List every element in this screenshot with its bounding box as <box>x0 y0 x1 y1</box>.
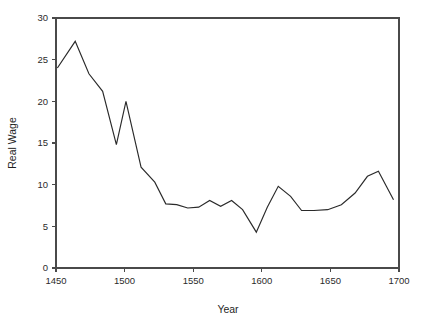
y-tick-label-0: 0 <box>43 262 48 273</box>
x-tick-label-1550: 1550 <box>183 275 204 286</box>
y-tick-label-20: 20 <box>37 96 48 107</box>
y-tick-label-30: 30 <box>37 12 48 23</box>
chart-page: 051015202530 145015001550160016501700 Re… <box>0 0 428 325</box>
y-tick-label-5: 5 <box>43 221 48 232</box>
x-tick-label-1500: 1500 <box>114 275 135 286</box>
y-axis-tick-labels: 051015202530 <box>37 12 48 273</box>
x-axis-ticks <box>56 268 399 272</box>
y-tick-label-15: 15 <box>37 137 48 148</box>
x-tick-label-1650: 1650 <box>320 275 341 286</box>
x-axis-title: Year <box>217 303 239 315</box>
x-tick-label-1600: 1600 <box>251 275 272 286</box>
y-axis-title: Real Wage <box>6 117 18 169</box>
plot-frame <box>56 18 399 268</box>
data-series-group <box>57 41 393 232</box>
axis-frame <box>56 18 399 268</box>
real-wage-line-chart: 051015202530 145015001550160016501700 Re… <box>0 0 428 325</box>
x-tick-label-1450: 1450 <box>45 275 66 286</box>
x-axis-tick-labels: 145015001550160016501700 <box>45 275 409 286</box>
x-tick-label-1700: 1700 <box>388 275 409 286</box>
y-tick-label-10: 10 <box>37 179 48 190</box>
y-tick-label-25: 25 <box>37 54 48 65</box>
y-axis-ticks <box>52 18 56 268</box>
real-wage-series-line <box>57 41 393 232</box>
